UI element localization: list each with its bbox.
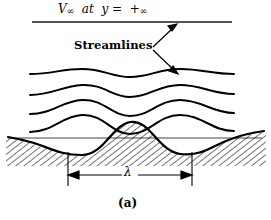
figure-canvas — [0, 0, 271, 220]
wavelength-label: λ — [124, 166, 132, 178]
solid-wall-hatching — [6, 121, 266, 166]
figure-caption: (a) — [118, 197, 137, 209]
freestream-velocity-label: V∞ at y = +∞ — [58, 3, 147, 16]
streamline-3 — [30, 100, 234, 116]
streamline-1 — [30, 69, 234, 77]
streamlines-leader-arrows — [153, 24, 178, 74]
arrowhead-left — [68, 171, 79, 179]
wavy-wall-figure: V∞ at y = +∞ Streamlines λ (a) — [0, 0, 271, 220]
streamlines-label: Streamlines — [74, 40, 153, 52]
streamline-2 — [30, 85, 234, 97]
arrowhead-upper — [168, 24, 177, 31]
arrowhead-right — [181, 171, 192, 179]
